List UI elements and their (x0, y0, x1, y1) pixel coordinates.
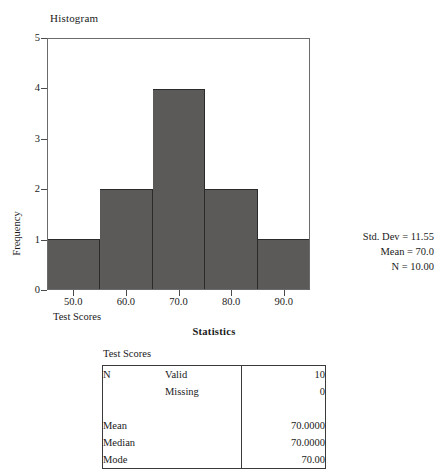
x-axis-title: Test Scores (53, 311, 101, 322)
row-value-missing: 0 (242, 383, 326, 400)
row-value-mean: 70.0000 (242, 417, 326, 434)
y-axis-title: Frequency (11, 198, 22, 270)
chart-legend: Std. Dev = 11.55 Mean = 70.0 N = 10.00 (318, 229, 434, 274)
spacer-cell (242, 400, 326, 417)
y-axis-label-0: 0 (12, 285, 40, 296)
plot-area (47, 38, 310, 290)
y-axis-label-2: 2 (12, 184, 40, 195)
statistics-table: N Valid 10 Missing 0 Mean 70.00 (102, 365, 326, 469)
row-label-n: N (103, 366, 165, 383)
table-row: Mode 70.00 (103, 451, 325, 468)
table-row: Median 70.0000 (103, 434, 325, 451)
legend-mean: Mean = 70.0 (318, 244, 434, 259)
chart-title: Histogram (50, 12, 98, 24)
y-axis-label-5: 5 (12, 33, 40, 44)
row-value-valid: 10 (242, 366, 326, 383)
bar-60 (100, 189, 152, 289)
row-sub-valid: Valid (165, 366, 242, 383)
row-sub-median (165, 434, 242, 451)
bar-50 (48, 239, 100, 289)
legend-std-dev: Std. Dev = 11.55 (318, 229, 434, 244)
x-axis-label-90: 90.0 (262, 296, 306, 307)
table-spacer-row (103, 400, 325, 417)
table-row: N Valid 10 (103, 366, 325, 383)
table-row: Missing 0 (103, 383, 325, 400)
row-sub-missing: Missing (165, 383, 242, 400)
histogram-figure: Histogram 5 4 3 2 1 0 Frequency 50.0 60.… (0, 0, 438, 320)
row-sub-mode (165, 451, 242, 468)
y-tick-0 (41, 290, 47, 291)
row-label-mode: Mode (103, 451, 165, 468)
x-axis-label-80: 80.0 (209, 296, 253, 307)
bar-70 (153, 89, 205, 289)
y-axis-labels: 5 4 3 2 1 0 (0, 0, 40, 320)
row-sub-mean (165, 417, 242, 434)
statistics-heading: Statistics (102, 326, 326, 337)
legend-n: N = 10.00 (318, 259, 434, 274)
y-axis-label-3: 3 (12, 134, 40, 145)
row-label-mean: Mean (103, 417, 165, 434)
spacer-cell (165, 400, 242, 417)
table-caption: Test Scores (103, 348, 151, 359)
row-label-median: Median (103, 434, 165, 451)
table-row: Mean 70.0000 (103, 417, 325, 434)
x-axis-label-70: 70.0 (157, 296, 201, 307)
x-axis-label-60: 60.0 (104, 296, 148, 307)
y-axis-label-4: 4 (12, 83, 40, 94)
row-value-mode: 70.00 (242, 451, 326, 468)
bar-90 (258, 239, 309, 289)
row-label-missing (103, 383, 165, 400)
bar-80 (205, 189, 257, 289)
spacer-cell (103, 400, 165, 417)
row-value-median: 70.0000 (242, 434, 326, 451)
x-axis-label-50: 50.0 (51, 296, 95, 307)
bar-series (48, 39, 309, 289)
